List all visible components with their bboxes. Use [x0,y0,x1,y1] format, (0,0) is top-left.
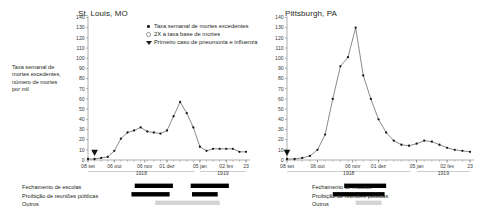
data-point [431,141,433,143]
data-point [332,98,334,100]
interv-label-other-left: Outros [22,200,39,208]
data-point [107,156,109,158]
data-point [120,137,122,139]
data-point [166,129,168,131]
open-circle-marker-icon [143,31,154,39]
data-point [339,65,341,67]
data-point [133,129,135,131]
year-label: 1918 [343,170,354,176]
data-point [393,140,395,142]
data-point [423,140,425,142]
data-point [232,148,234,150]
y-tick-label: 40 [278,116,284,122]
data-point [324,133,326,135]
data-point [87,158,89,160]
y-tick-label: 10 [278,147,284,153]
intervention-bar [155,201,220,205]
data-point [186,112,188,114]
x-tick-label: 01 dez [159,163,175,169]
data-point [113,150,115,152]
x-tick-label: 01 dez [371,163,387,169]
intervention-bar [192,192,218,196]
data-point [100,157,102,159]
data-point [126,131,128,133]
data-line [287,28,470,159]
dot-marker-icon [143,23,154,31]
y-tick-label: 30 [79,126,85,132]
intervention-bar [191,184,229,188]
data-point [245,151,247,153]
data-point [316,149,318,151]
data-point [293,158,295,160]
triangle-marker-icon [143,39,154,47]
data-point [301,157,303,159]
year-label: 1919 [438,170,449,176]
data-point [385,131,387,133]
data-point [212,148,214,150]
legend-item-baseline: 2X a taxa base de mortes [143,31,273,39]
data-point [454,149,456,151]
data-point [238,151,240,153]
y-tick-label: 20 [278,136,284,142]
x-tick-label: 05 jan [193,163,207,169]
x-tick-label: 02 fev [440,163,454,169]
data-point [347,56,349,58]
data-point [377,118,379,120]
interv-label-gatherings-right: Proibição de reuniões públicas [312,192,388,200]
legend-label-excess-deaths: Taxa semanal de mortes excedentes [154,23,248,31]
x-tick-label: 06 nov [345,163,361,169]
interv-label-other-right: Outros [312,200,329,208]
x-tick-label: 08 set [81,163,95,169]
y-tick-label: 90 [79,65,85,71]
year-label: 1918 [136,170,147,176]
data-point [370,98,372,100]
x-tick-label: 06 out [310,163,325,169]
data-point [438,144,440,146]
y-tick-label: 110 [275,45,283,51]
data-point [415,143,417,145]
y-tick-label: 70 [79,86,85,92]
data-point [362,74,364,76]
legend-item-first-case: Primeiro caso de pneumonia e influenza [143,39,273,47]
y-tick-label: 20 [79,136,85,142]
y-tick-label: 30 [278,126,284,132]
legend-label-baseline: 2X a taxa base de mortes [154,31,220,39]
data-point [179,101,181,103]
x-tick-label: 05 jan [410,163,424,169]
y-tick-label: 90 [278,65,284,71]
data-point [199,146,201,148]
legend-item-excess-deaths: Taxa semanal de mortes excedentes [143,23,273,31]
data-point [205,150,207,152]
interv-label-schools-right: Fechamento de escolas [312,183,371,191]
y-tick-label: 100 [275,55,284,61]
y-tick-label: 140 [275,14,284,20]
interv-label-schools-left: Fechamento de escolas [22,183,81,191]
y-tick-label: 10 [79,147,85,153]
y-tick-label: 50 [278,106,284,112]
x-tick-label: 06 nov [137,163,153,169]
data-point [93,158,95,160]
chart-panel-pittsburgh: Pittsburgh, PA 1401301201101009080706050… [255,0,492,214]
x-tick-label: 02 fev [219,163,233,169]
x-tick-label: 23 [243,163,249,169]
y-tick-label: 60 [278,96,284,102]
x-tick-label: 23 [467,163,473,169]
data-point [354,27,356,29]
primeiro-caso-triangle-icon [284,150,291,156]
data-point [159,132,161,134]
x-tick-label: 06 out [107,163,122,169]
data-point [172,115,174,117]
y-tick-label: 0 [281,157,284,163]
y-tick-label: 40 [79,116,85,122]
legend-label-first-case: Primeiro caso de pneumonia e influenza [154,39,257,47]
figure-root: Taxa semanal de mortes excedentes, númer… [0,0,492,214]
y-tick-label: 130 [275,24,284,30]
y-tick-label: 100 [76,55,85,61]
y-tick-label: 0 [82,157,85,163]
data-point [408,145,410,147]
y-tick-label: 140 [76,14,85,20]
y-tick-label: 50 [79,106,85,112]
data-point [400,144,402,146]
y-tick-label: 80 [278,75,284,81]
year-label: 1919 [217,170,228,176]
